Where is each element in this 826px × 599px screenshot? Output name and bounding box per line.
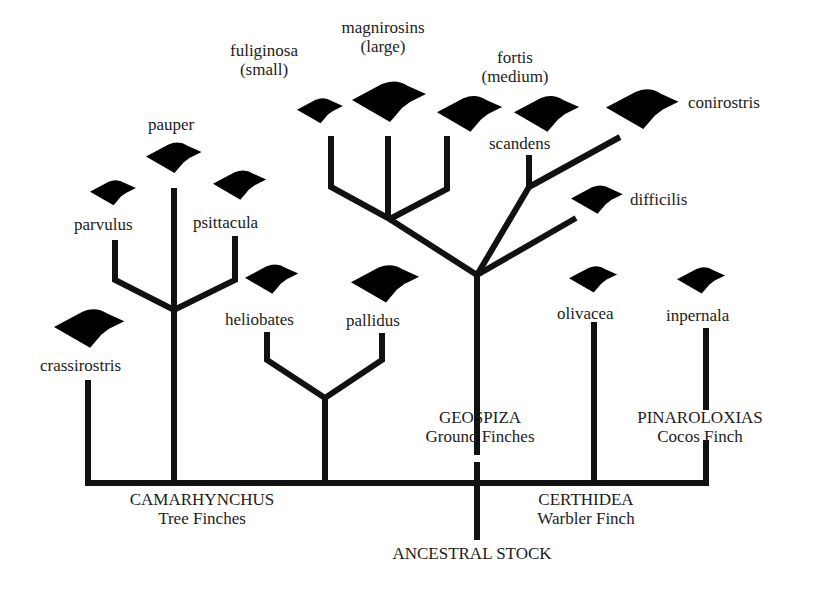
fortis-branch — [388, 136, 447, 220]
bird-head-parvulus-icon — [90, 180, 136, 205]
label-parvulus: parvulus — [74, 215, 133, 234]
bird-head-magnirosins-icon — [352, 81, 426, 122]
bird-head-fortis-icon — [437, 96, 502, 132]
bird-head-inpernala-icon — [677, 267, 725, 293]
label-certhidea: CERTHIDEAWarbler Finch — [537, 490, 634, 528]
label-magnirosins: magnirosins(large) — [341, 18, 424, 56]
bird-head-olivacea-icon — [569, 266, 617, 292]
baseline-branch — [88, 380, 706, 483]
label-fortis: fortis(medium) — [481, 48, 548, 86]
label-geospiza: GEOSPIZAGround Finches — [425, 408, 534, 446]
label-fuliginosa: fuliginosa(small) — [230, 41, 298, 79]
label-camarhynchus: CAMARHYNCHUSTree Finches — [130, 490, 275, 528]
heliobates-pallidus-branch — [267, 332, 382, 398]
label-scandens: scandens — [489, 134, 550, 153]
tree-branches — [0, 0, 826, 599]
bird-head-crassirostris-icon — [54, 309, 124, 348]
label-crassirostris: crassirostris — [40, 356, 121, 375]
label-heliobates: heliobates — [225, 310, 294, 329]
label-olivacea: olivacea — [557, 304, 614, 323]
bird-head-heliobates-icon — [245, 264, 298, 293]
label-pauper: pauper — [148, 115, 194, 134]
label-pinaroloxias: PINAROLOXIASCocos Finch — [637, 408, 763, 446]
bird-head-fuliginosa-icon — [297, 98, 343, 123]
fuliginosa-branch — [331, 136, 477, 275]
bird-head-difficilis-icon — [571, 185, 623, 213]
label-conirostris: conirostris — [688, 93, 760, 112]
bird-head-pauper-icon — [146, 143, 202, 173]
label-psittacula: psittacula — [193, 213, 258, 232]
bird-head-conirostris-icon — [606, 89, 679, 129]
label-ancestral-stock: ANCESTRAL STOCK — [392, 544, 551, 563]
bird-head-psittacula-icon — [213, 170, 266, 199]
label-inpernala: inpernala — [666, 306, 729, 325]
label-pallidus: pallidus — [346, 311, 400, 330]
bird-head-pallidus-icon — [351, 265, 419, 302]
label-difficilis: difficilis — [630, 190, 687, 209]
bird-head-scandens-icon — [514, 96, 579, 132]
